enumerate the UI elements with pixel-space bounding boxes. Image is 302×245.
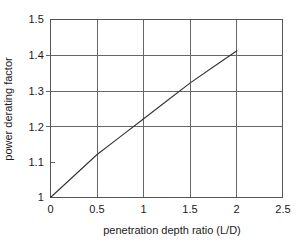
y-axis-title-container: power derating factor (0, 19, 16, 198)
plot-background (50, 19, 283, 198)
x-tick-label-0.5: 0.5 (82, 203, 112, 215)
y-axis-title: power derating factor (2, 57, 14, 160)
y-tick-label-1.2: 1.2 (16, 121, 44, 133)
x-tick-label-2: 2 (222, 203, 251, 215)
x-tick-label-1: 1 (129, 203, 158, 215)
y-tick-label-1.1: 1.1 (16, 156, 44, 168)
y-tick-label-1.5: 1.5 (16, 13, 44, 25)
chart-figure: 1.5 1.4 1.3 1.2 1.1 1 0 0.5 1 1.5 2 2.5 … (0, 0, 302, 245)
y-axis-ticks (46, 55, 50, 127)
y-tick-label-1.3: 1.3 (16, 85, 44, 97)
y-tick-label-1: 1 (16, 191, 44, 203)
x-tick-label-2.5: 2.5 (268, 203, 298, 215)
x-tick-label-1.5: 1.5 (175, 203, 205, 215)
x-axis-title: penetration depth ratio (L/D) (50, 224, 294, 236)
x-tick-label-0: 0 (36, 203, 65, 215)
y-tick-label-1.4: 1.4 (16, 49, 44, 61)
